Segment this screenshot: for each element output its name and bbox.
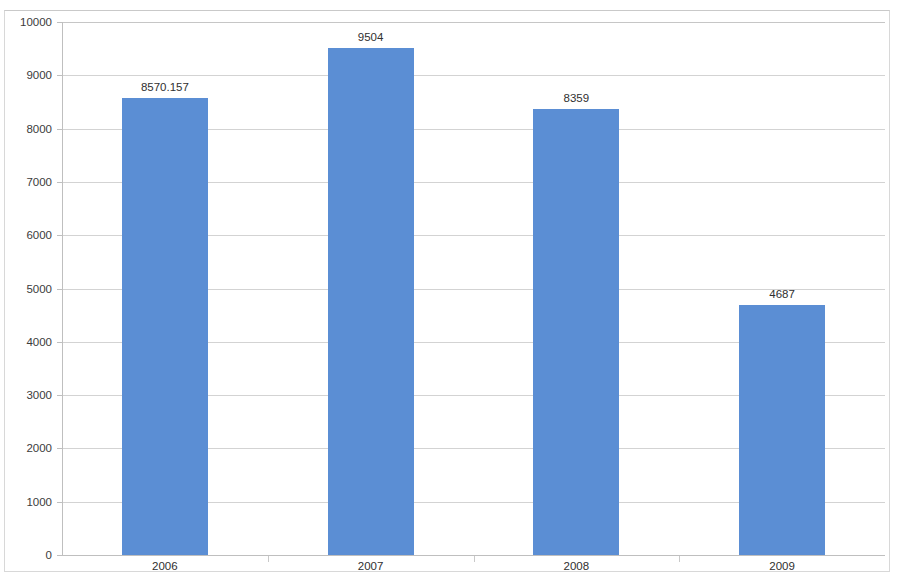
y-axis-tick: 5000 <box>0 283 52 295</box>
gridline-10000 <box>62 22 885 23</box>
y-axis-tick-label: 4000 <box>0 336 52 348</box>
y-axis-tick-label: 2000 <box>0 442 52 454</box>
y-axis-tick-label: 8000 <box>0 123 52 135</box>
y-axis-tick: 4000 <box>0 336 52 348</box>
y-axis-tick: 10000 <box>0 16 52 28</box>
x-axis-label-2009: 2009 <box>722 560 842 573</box>
x-axis-label-2008: 2008 <box>516 560 636 573</box>
y-axis-tick-label: 10000 <box>0 16 52 28</box>
y-axis-tick-label: 7000 <box>0 176 52 188</box>
x-axis-label-2007: 2007 <box>311 560 431 573</box>
y-axis-tick: 8000 <box>0 123 52 135</box>
x-axis-category-separator <box>679 556 680 562</box>
y-axis-tick-label: 6000 <box>0 229 52 241</box>
bar-2006[interactable] <box>122 98 208 555</box>
y-axis-tick: 1000 <box>0 496 52 508</box>
bar-value-label-2008: 8359 <box>516 92 636 105</box>
y-axis-tick-label: 1000 <box>0 496 52 508</box>
bar-2007[interactable] <box>328 48 414 555</box>
bar-2009[interactable] <box>739 305 825 555</box>
y-axis-tick: 0 <box>0 549 52 561</box>
y-axis-tick: 7000 <box>0 176 52 188</box>
y-axis-tick-label: 9000 <box>0 69 52 81</box>
x-axis-label-2006: 2006 <box>105 560 225 573</box>
y-axis-tick-label: 5000 <box>0 283 52 295</box>
y-axis-line <box>62 22 63 555</box>
x-axis-category-separator <box>474 556 475 562</box>
bar-2008[interactable] <box>533 109 619 555</box>
y-axis-tick-label: 0 <box>0 549 52 561</box>
bar-value-label-2006: 8570.157 <box>105 81 225 94</box>
y-axis-tick: 3000 <box>0 389 52 401</box>
y-axis-tick: 2000 <box>0 442 52 454</box>
bar-chart: 0100020003000400050006000700080009000100… <box>0 0 898 581</box>
y-axis-tick-label: 3000 <box>0 389 52 401</box>
bar-value-label-2009: 4687 <box>722 288 842 301</box>
y-axis-tick: 6000 <box>0 229 52 241</box>
gridline-9000 <box>62 75 885 76</box>
bar-value-label-2007: 9504 <box>311 31 431 44</box>
y-axis-tick: 9000 <box>0 69 52 81</box>
x-axis-category-separator <box>268 556 269 562</box>
chart-page: 0100020003000400050006000700080009000100… <box>0 0 898 581</box>
